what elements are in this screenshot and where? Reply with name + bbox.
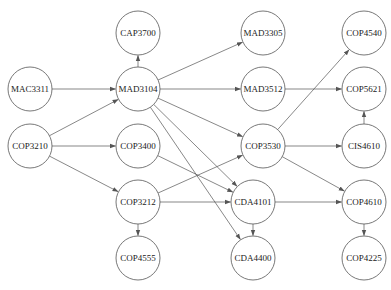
node-label: MAD3512	[243, 84, 282, 94]
node-cop3212: COP3212	[116, 180, 160, 224]
node-label: MAD3104	[118, 84, 158, 94]
node-cop4610: COP4610	[342, 180, 386, 224]
node-label: CDA4400	[234, 253, 272, 263]
node-label: COP5621	[346, 84, 382, 94]
node-label: MAD3305	[243, 28, 283, 38]
edge-mad3104-to-cop3530	[158, 98, 243, 137]
node-label: COP4610	[346, 197, 382, 207]
node-cda4101: CDA4101	[231, 180, 275, 224]
node-mad3104: MAD3104	[116, 67, 160, 111]
node-mac3311: MAC3311	[8, 67, 52, 111]
node-label: COP3212	[120, 197, 156, 207]
node-cop5621: COP5621	[342, 67, 386, 111]
node-cop4540: COP4540	[342, 11, 386, 55]
node-label: COP4225	[346, 253, 382, 263]
edge-cop3212-to-cop3530	[158, 155, 242, 193]
node-label: CDA4101	[234, 197, 271, 207]
node-cop3210: COP3210	[8, 124, 52, 168]
node-label: CIS4610	[348, 141, 381, 151]
edge-mad3104-to-mad3305	[158, 42, 242, 80]
node-label: CAP3700	[120, 28, 156, 38]
nodes-layer: CAP3700MAD3305COP4540MAC3311MAD3104MAD35…	[8, 11, 386, 280]
node-label: COP4555	[120, 253, 156, 263]
node-cop3400: COP3400	[116, 124, 160, 168]
node-cop3530: COP3530	[241, 124, 285, 168]
edges-layer	[49, 42, 364, 239]
edge-cop3530-to-cop4540	[278, 50, 349, 130]
node-label: MAC3311	[11, 84, 49, 94]
edge-cop3210-to-mad3104	[49, 100, 118, 136]
node-cop4555: COP4555	[116, 236, 160, 280]
node-label: COP4540	[346, 28, 382, 38]
node-cis4610: CIS4610	[342, 124, 386, 168]
edge-cop3400-to-cda4101	[158, 156, 233, 193]
edge-cop3530-to-cop4610	[282, 157, 344, 191]
node-label: COP3530	[245, 141, 281, 151]
edge-cop3210-to-cop3212	[50, 156, 118, 192]
node-cap3700: CAP3700	[116, 11, 160, 55]
node-cop4225: COP4225	[342, 236, 386, 280]
edge-mad3104-to-cda4400	[150, 107, 240, 239]
node-label: COP3210	[12, 141, 48, 151]
node-mad3305: MAD3305	[241, 11, 285, 55]
node-mad3512: MAD3512	[241, 67, 285, 111]
node-label: COP3400	[120, 141, 156, 151]
prerequisite-graph: CAP3700MAD3305COP4540MAC3311MAD3104MAD35…	[0, 0, 391, 290]
node-cda4400: CDA4400	[231, 236, 275, 280]
